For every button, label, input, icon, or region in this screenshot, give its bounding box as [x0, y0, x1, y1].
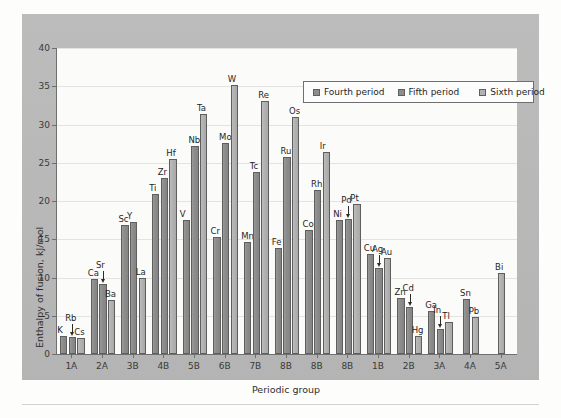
bar-Bi [498, 273, 505, 354]
y-tick-mark [52, 354, 56, 355]
gridline [57, 125, 517, 126]
x-tick-label-5: 6B [210, 362, 240, 371]
bar-Cs [77, 338, 84, 354]
legend-swatch-1 [398, 89, 405, 96]
y-tick-label: 10 [20, 274, 50, 283]
x-tick-mark [439, 354, 440, 358]
bar-label-K: K [57, 326, 63, 335]
bar-label-V: V [180, 210, 186, 219]
bar-label-Ni: Ni [333, 210, 342, 219]
bar-Ba [108, 300, 115, 354]
y-tick-mark [52, 316, 56, 317]
bar-Rb [69, 337, 76, 354]
bar-Hf [169, 159, 176, 354]
bar-label-Ir: Ir [320, 142, 326, 151]
bar-label-La: La [136, 268, 146, 277]
bar-W [231, 85, 238, 354]
bar-Ti [152, 194, 159, 354]
legend-label-0: Fourth period [324, 88, 385, 97]
y-tick-mark [52, 239, 56, 240]
bar-Mo [222, 143, 229, 354]
y-tick-label: 15 [20, 235, 50, 244]
bar-Ir [323, 152, 330, 354]
bar-Y [130, 222, 137, 354]
bar-label-Ta: Ta [197, 104, 206, 113]
bar-Mn [244, 242, 251, 354]
bar-Tc [253, 172, 260, 354]
y-tick-label: 25 [20, 159, 50, 168]
x-tick-mark [501, 354, 502, 358]
bar-Ru [283, 157, 290, 354]
bar-Rh [314, 190, 321, 354]
bar-label-Tl: Tl [442, 312, 450, 321]
bar-V [183, 220, 190, 354]
bar-label-Co: Co [302, 220, 313, 229]
x-tick-mark [71, 354, 72, 358]
x-tick-label-9: 8B [332, 362, 362, 371]
x-tick-label-4: 5B [179, 362, 209, 371]
x-tick-mark [163, 354, 164, 358]
bar-Zn [397, 298, 404, 354]
legend-label-2: Sixth period [490, 88, 544, 97]
bar-label-Au: Au [381, 248, 392, 257]
annotation-arrowhead-Ag [377, 263, 381, 267]
bar-Pb [472, 317, 479, 354]
bar-Pd [345, 219, 352, 354]
bar-Au [384, 258, 391, 354]
bar-Zr [161, 178, 168, 354]
x-tick-label-8: 8B [302, 362, 332, 371]
bar-Fe [275, 248, 282, 354]
x-tick-mark [255, 354, 256, 358]
bar-label-Os: Os [289, 107, 300, 116]
y-tick-mark [52, 278, 56, 279]
x-tick-label-11: 2B [394, 362, 424, 371]
legend-item-1: Fifth period [398, 88, 460, 97]
bar-Tl [445, 322, 452, 354]
annotation-arrowhead-In [438, 324, 442, 328]
annotation-arrowhead-Sr [101, 279, 105, 283]
bar-Ta [200, 114, 207, 354]
x-tick-mark [194, 354, 195, 358]
x-tick-label-6: 7B [240, 362, 270, 371]
x-tick-mark [378, 354, 379, 358]
x-tick-mark [286, 354, 287, 358]
y-tick-label: 5 [20, 312, 50, 321]
x-tick-mark [409, 354, 410, 358]
bar-label-Rb: Rb [65, 314, 76, 323]
bar-Ni [336, 220, 343, 354]
bar-label-Sr: Sr [96, 261, 105, 270]
bar-In [437, 329, 444, 354]
bar-label-Zr: Zr [158, 168, 167, 177]
y-tick-mark [52, 48, 56, 49]
bar-label-Re: Re [258, 91, 269, 100]
bar-Sc [121, 225, 128, 354]
bar-label-Rh: Rh [311, 180, 322, 189]
y-tick-label: 35 [20, 82, 50, 91]
x-tick-label-10: 1B [363, 362, 393, 371]
bar-label-Cd: Cd [403, 284, 414, 293]
y-tick-mark [52, 86, 56, 87]
x-tick-mark [347, 354, 348, 358]
x-tick-label-2: 3B [118, 362, 148, 371]
bar-label-Tc: Tc [250, 162, 258, 171]
x-tick-mark [102, 354, 103, 358]
bar-label-Ti: Ti [149, 184, 156, 193]
bar-Cr [213, 237, 220, 354]
bar-label-Sn: Sn [460, 289, 471, 298]
y-tick-label: 20 [20, 197, 50, 206]
legend-swatch-0 [313, 89, 320, 96]
legend-item-0: Fourth period [313, 88, 385, 97]
bar-Nb [191, 146, 198, 354]
bottom-divider [22, 404, 539, 405]
y-tick-label: 0 [20, 350, 50, 359]
y-tick-label: 40 [20, 44, 50, 53]
x-tick-label-7: 8B [271, 362, 301, 371]
bar-label-Pb: Pb [469, 307, 480, 316]
bar-La [139, 278, 146, 355]
x-axis-label: Periodic group [56, 384, 516, 395]
bar-Pt [353, 204, 360, 354]
legend-item-2: Sixth period [479, 88, 544, 97]
bar-label-W: W [228, 75, 236, 84]
bar-label-Cr: Cr [210, 227, 219, 236]
figure-container: Enthalpy of fusion, kJ/mol KRbCsCaSrBaSc… [0, 0, 561, 418]
